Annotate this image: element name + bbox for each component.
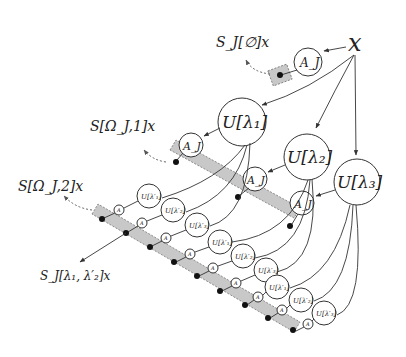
svg-text:A_J: A_J — [246, 174, 265, 187]
svg-text:A: A — [279, 307, 284, 313]
svg-text:U[λ₃]: U[λ₃] — [337, 172, 383, 192]
svg-text:A: A — [210, 265, 215, 271]
svg-text:U[λ′₁]: U[λ′₁] — [141, 193, 161, 201]
svg-text:A_J: A_J — [182, 140, 201, 153]
example-path-output: S_J[λ₁, λ′₂]x — [40, 233, 126, 283]
svg-text:A: A — [233, 280, 238, 286]
svg-text:U[λ′₁]: U[λ′₁] — [212, 239, 232, 247]
example-path-label: S_J[λ₁, λ′₂]x — [40, 269, 111, 283]
svg-text:A: A — [187, 251, 192, 257]
output-order2-label: S[Ω_J,2]x — [18, 178, 83, 195]
svg-text:A: A — [305, 321, 310, 327]
svg-text:A: A — [116, 207, 121, 213]
scattering-diagram: x A_J S_J[∅]x U[λ₁] A_J S[Ω_J,1]x U[λ₂] … — [0, 0, 406, 357]
svg-text:U[λ′₁]: U[λ′₁] — [269, 284, 289, 292]
svg-text:U[λ′₃]: U[λ′₃] — [189, 222, 209, 230]
root-x-label: x — [348, 29, 362, 57]
svg-text:A: A — [163, 235, 168, 241]
averaging-label: A_J — [299, 56, 321, 70]
svg-text:U[λ₁]: U[λ₁] — [222, 112, 268, 132]
svg-text:A_J: A_J — [293, 198, 312, 211]
output-order1-label: S[Ω_J,1]x — [90, 118, 155, 135]
svg-text:U[λ₂]: U[λ₂] — [287, 147, 333, 167]
svg-text:U[λ′₃]: U[λ′₃] — [316, 310, 336, 318]
svg-text:U[λ′₂]: U[λ′₂] — [293, 297, 313, 305]
svg-text:A: A — [255, 294, 260, 300]
svg-text:U[λ′₃]: U[λ′₃] — [258, 267, 278, 275]
svg-text:U[λ′₂]: U[λ′₂] — [235, 253, 255, 261]
layer1-node-1: U[λ₁] A_J S[Ω_J,1]x — [90, 98, 268, 165]
output-order0-label: S_J[∅]x — [216, 34, 269, 51]
svg-text:A: A — [139, 220, 144, 226]
svg-text:U[λ′₂]: U[λ′₂] — [165, 207, 185, 215]
order2-output: S[Ω_J,2]x — [18, 178, 92, 210]
